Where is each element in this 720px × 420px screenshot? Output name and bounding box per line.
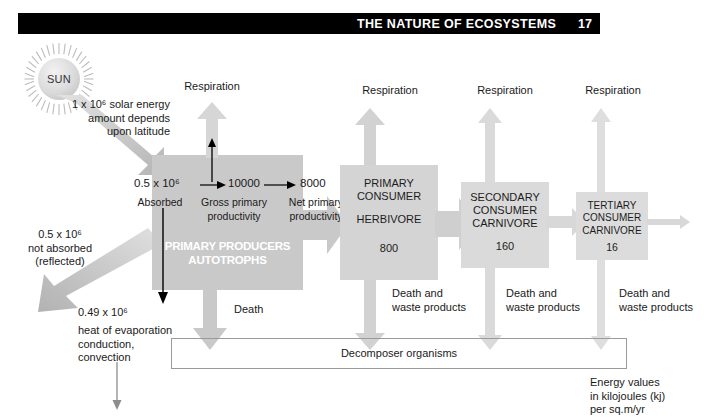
ecosystem-energy-flow-diagram: THE NATURE OF ECOSYSTEMS 17 xyxy=(0,0,720,420)
tertiary-consumer-title: TERTIARY CONSUMER xyxy=(576,200,648,224)
tertiary-consumer-waste-label: Death and waste products xyxy=(619,287,719,314)
primary-consumer-waste-label: Death and waste products xyxy=(392,287,492,314)
producers-death-label: Death xyxy=(234,303,294,317)
absorbed-to-gross-arrow xyxy=(200,179,226,191)
primary-consumer-respiration-label: Respiration xyxy=(335,84,445,98)
primary-consumer-type: HERBIVORE xyxy=(340,213,438,226)
primary-consumer-title: PRIMARY CONSUMER xyxy=(340,177,438,203)
gross-to-net-arrow xyxy=(264,179,296,191)
producers-respiration-label: Respiration xyxy=(177,80,247,94)
page-header-title: THE NATURE OF ECOSYSTEMS xyxy=(357,17,556,31)
gross-to-respiration-arrow xyxy=(203,138,221,182)
energy-units-footnote: Energy values in kilojoules (kj) per sq.… xyxy=(590,376,720,417)
primary-producers-title: PRIMARY PRODUCERS AUTOTROPHS xyxy=(152,239,303,267)
absorbed-value: 0.5 x 10⁶ xyxy=(134,177,206,191)
tertiary-consumer-box: TERTIARY CONSUMER CARNIVORE 16 xyxy=(576,192,648,260)
tertiary-consumer-respiration-label: Respiration xyxy=(566,84,660,98)
secondary-consumer-title: SECONDARY CONSUMER xyxy=(461,191,549,217)
page-header-bar: THE NATURE OF ECOSYSTEMS 17 xyxy=(18,13,600,34)
sun-disc: SUN xyxy=(38,58,80,100)
decomposer-organisms-box: Decomposer organisms xyxy=(171,338,627,369)
tertiary-consumer-type: CARNIVORE xyxy=(576,224,648,237)
secondary-consumer-value: 160 xyxy=(461,240,549,253)
decomposer-organisms-label: Decomposer organisms xyxy=(172,347,626,359)
secondary-consumer-respiration-label: Respiration xyxy=(455,84,555,98)
tertiary-consumer-value: 16 xyxy=(576,241,648,254)
gross-productivity-label: Gross primary productivity xyxy=(192,196,276,223)
not-absorbed-label: 0.5 x 10⁶ not absorbed (reflected) xyxy=(6,228,114,269)
tertiary-output-arrow xyxy=(646,214,690,230)
absorbed-heat-loss-arrow xyxy=(154,208,172,304)
primary-consumer-box: PRIMARY CONSUMER HERBIVORE 800 xyxy=(340,165,438,280)
heat-loss-arrow xyxy=(106,362,128,412)
secondary-consumer-type: CARNIVORE xyxy=(461,217,549,230)
secondary-consumer-box: SECONDARY CONSUMER CARNIVORE 160 xyxy=(461,182,549,268)
sun-label: SUN xyxy=(47,73,71,85)
solar-energy-label: 1 x 10⁶ solar energy amount depends upon… xyxy=(46,98,170,139)
heat-loss-value: 0.49 x 10⁶ xyxy=(78,306,198,320)
page-number: 17 xyxy=(578,17,592,31)
primary-consumer-value: 800 xyxy=(340,242,438,255)
